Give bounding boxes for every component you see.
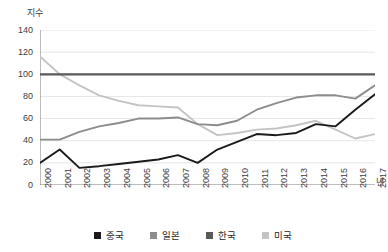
x-axis-tick-label: 2007 bbox=[182, 168, 191, 188]
legend-swatch-icon bbox=[262, 232, 269, 239]
x-axis-tick-label: 2003 bbox=[103, 168, 112, 188]
series-line-중국 bbox=[40, 94, 375, 168]
legend-swatch-icon bbox=[150, 232, 157, 239]
legend-swatch-icon bbox=[206, 232, 213, 239]
x-axis-tick-label: 2012 bbox=[280, 168, 289, 188]
legend-item-일본[interactable]: 일본 bbox=[150, 228, 180, 242]
x-axis-tick-label: 2016 bbox=[359, 168, 368, 188]
series-line-미국 bbox=[40, 57, 375, 139]
x-axis-tick-label: 2008 bbox=[202, 168, 211, 188]
y-axis-tick-label: 20 bbox=[5, 158, 33, 167]
plot-svg bbox=[40, 30, 375, 185]
y-axis-tick-label: 0 bbox=[5, 181, 33, 190]
x-axis-tick-label: 2004 bbox=[123, 168, 132, 188]
x-axis-tick-label: 2009 bbox=[221, 168, 230, 188]
y-axis-tick-label: 60 bbox=[5, 114, 33, 123]
plot-area bbox=[40, 30, 375, 185]
x-axis-tick-label: 2010 bbox=[241, 168, 250, 188]
legend-item-label: 중국 bbox=[106, 228, 124, 242]
y-axis-tick-label: 80 bbox=[5, 92, 33, 101]
x-axis-unit-label: 년 bbox=[376, 175, 384, 188]
legend-item-label: 일본 bbox=[162, 228, 180, 242]
x-axis-tick-label: 2006 bbox=[162, 168, 171, 188]
y-axis-tick-label: 40 bbox=[5, 136, 33, 145]
x-axis-tick-label: 2002 bbox=[83, 168, 92, 188]
x-axis-tick-label: 2011 bbox=[261, 169, 270, 188]
x-axis-tick-label: 2014 bbox=[320, 168, 329, 188]
x-axis-tick-label: 2001 bbox=[64, 168, 73, 188]
legend-swatch-icon bbox=[94, 232, 101, 239]
legend-item-미국[interactable]: 미국 bbox=[262, 228, 292, 242]
x-axis-tick-label: 2015 bbox=[340, 168, 349, 188]
y-axis-unit-label: 지수 bbox=[27, 6, 43, 19]
legend-item-중국[interactable]: 중국 bbox=[94, 228, 124, 242]
x-axis-tick-label: 2013 bbox=[300, 168, 309, 188]
legend-item-label: 한국 bbox=[218, 228, 236, 242]
x-axis-tick-label: 2005 bbox=[143, 168, 152, 188]
y-axis-tick-label: 120 bbox=[5, 48, 33, 57]
legend-item-한국[interactable]: 한국 bbox=[206, 228, 236, 242]
y-axis-tick-label: 100 bbox=[5, 70, 33, 79]
y-axis-tick-label: 140 bbox=[5, 26, 33, 35]
legend-item-label: 미국 bbox=[274, 228, 292, 242]
x-axis-tick-label: 2000 bbox=[44, 168, 53, 188]
chart-legend: 중국일본한국미국 bbox=[0, 228, 386, 242]
series-line-일본 bbox=[40, 85, 375, 139]
